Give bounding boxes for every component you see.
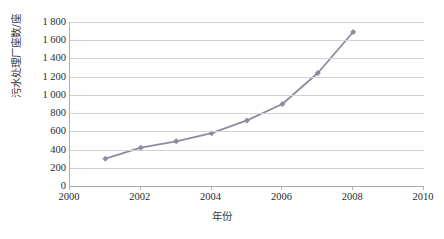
x-tick-label: 2002 (118, 190, 162, 203)
gridline (70, 58, 424, 59)
y-tick-label: 1 800 (22, 17, 66, 27)
x-tickmark (281, 186, 282, 190)
x-tick-label: 2004 (189, 190, 233, 203)
y-tick-label: 1 200 (22, 72, 66, 82)
y-tick-label: 1 600 (22, 35, 66, 45)
data-point-marker (102, 156, 108, 162)
gridline (70, 168, 424, 169)
gridline (70, 77, 424, 78)
gridline (70, 40, 424, 41)
x-tickmark (140, 186, 141, 190)
y-tick-label: 400 (22, 145, 66, 155)
plot-area (69, 22, 423, 186)
y-tick-label: 200 (22, 163, 66, 173)
y-tick-label: 800 (22, 108, 66, 118)
x-tick-label: 2010 (401, 190, 444, 203)
gridline (70, 95, 424, 96)
gridline (70, 150, 424, 151)
y-tick-label: 1 000 (22, 90, 66, 100)
x-tick-label: 2008 (330, 190, 374, 203)
x-tick-label: 2000 (47, 190, 91, 203)
x-tickmark (69, 186, 70, 190)
gridline (70, 186, 424, 187)
gridline (70, 131, 424, 132)
x-axis-title: 年份 (0, 208, 444, 223)
gridline (70, 22, 424, 23)
x-tickmark (211, 186, 212, 190)
x-axis-tick-labels: 200020022004200620082010 (0, 190, 444, 206)
data-point-marker (173, 138, 179, 144)
line-chart: 污水处理厂座数/座 02004006008001 0001 2001 4001 … (0, 0, 444, 239)
gridline (70, 113, 424, 114)
data-point-marker (244, 117, 250, 123)
x-tickmark (352, 186, 353, 190)
y-tick-label: 1 400 (22, 53, 66, 63)
series-svg (70, 22, 424, 186)
x-tick-label: 2006 (259, 190, 303, 203)
y-tick-label: 600 (22, 126, 66, 136)
x-tickmark (423, 186, 424, 190)
